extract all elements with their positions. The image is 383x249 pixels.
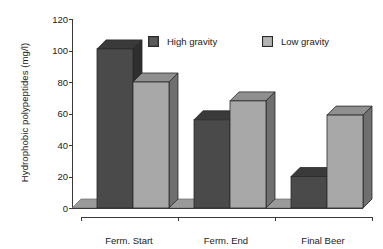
x-tick-mark-0 [81,217,82,221]
bar-ferm-start-low-gravity[interactable] [133,73,178,208]
y-tick-label-120: 120 [38,15,68,25]
x-tick-mark-2 [275,217,276,221]
y-tick-label-80: 80 [38,78,68,88]
y-tick-label-20: 20 [38,172,68,182]
legend-label-high-gravity: High gravity [167,36,217,47]
y-tick-label-100: 100 [38,46,68,56]
x-axis-line [72,208,363,209]
x-category-label-ferm-start: Ferm. Start [74,235,184,246]
x-category-label-ferm-end: Ferm. End [171,235,281,246]
y-tick-label-0: 0 [38,204,68,214]
y-tick-label-60: 60 [38,109,68,119]
legend-swatch-low-gravity-icon [262,36,273,47]
x-axis-baseline-front [81,217,372,218]
y-axis-title: Hydrophobic polypeptides (mg/l) [19,13,30,213]
x-tick-mark-1 [178,217,179,221]
x-category-label-final-beer: Final Beer [268,235,378,246]
y-tick-label-40: 40 [38,141,68,151]
legend-label-low-gravity: Low gravity [281,36,329,47]
bars-layer [72,19,372,219]
bar-ferm-end-low-gravity[interactable] [230,92,275,208]
plot-area: Ferm. Start Ferm. End Final Beer [72,19,372,209]
legend-swatch-high-gravity-icon [148,36,159,47]
bar-final-beer-low-gravity[interactable] [327,106,372,208]
bar-chart: Hydrophobic polypeptides (mg/l) 120 100 … [0,0,383,249]
x-tick-mark-3 [372,217,373,221]
